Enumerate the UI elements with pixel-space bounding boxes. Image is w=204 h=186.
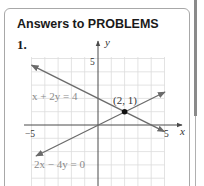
y-tick-5: 5 [90, 57, 95, 67]
y-axis-label: y [104, 36, 110, 48]
x-tick-5: 5 [164, 129, 169, 139]
intersection-label: (2, 1) [113, 94, 137, 107]
line1-label: x + 2y = 4 [32, 90, 78, 102]
graph: y 5 x −5 5 x + 2y = 4 2x − 4y = 0 (2, 1) [0, 0, 204, 186]
intersection-point [122, 109, 128, 115]
x-tick-neg5: −5 [25, 129, 35, 139]
line2-label: 2x − 4y = 0 [34, 158, 85, 170]
x-axis-label: x [179, 125, 185, 137]
